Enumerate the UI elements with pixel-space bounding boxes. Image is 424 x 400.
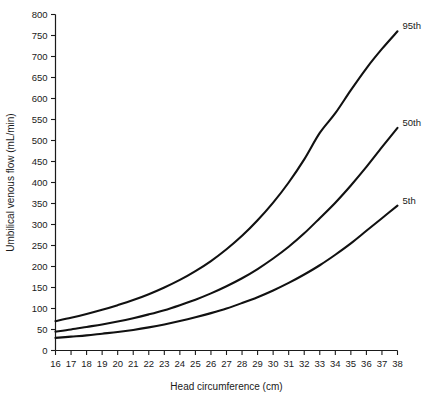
x-tick-label: 21 (128, 358, 139, 369)
y-tick-label: 750 (32, 30, 48, 41)
chart-canvas: 0501001502002503003504004505005506006507… (0, 0, 424, 400)
y-tick-label: 700 (32, 51, 48, 62)
series-label-50th: 50th (403, 117, 422, 128)
x-tick-label: 38 (392, 358, 403, 369)
series-label-95th: 95th (403, 20, 422, 31)
x-tick-label: 18 (81, 358, 92, 369)
y-tick-label: 200 (32, 261, 48, 272)
x-tick-label: 34 (330, 358, 341, 369)
curve-5th (56, 206, 398, 338)
y-tick-label: 350 (32, 198, 48, 209)
series-label-5th: 5th (403, 195, 416, 206)
x-tick-label: 35 (346, 358, 357, 369)
y-tick-label: 150 (32, 282, 48, 293)
y-tick-label: 650 (32, 72, 48, 83)
y-tick-label: 400 (32, 177, 48, 188)
y-tick-label: 100 (32, 303, 48, 314)
y-tick-label: 800 (32, 9, 48, 20)
x-axis-title: Head circumference (cm) (170, 381, 282, 392)
y-tick-label: 300 (32, 219, 48, 230)
x-tick-label: 27 (221, 358, 232, 369)
y-tick-label: 550 (32, 114, 48, 125)
y-axis-tick-labels: 0501001502002503003504004505005506006507… (32, 9, 48, 356)
data-curves (56, 31, 398, 338)
series-end-labels: 95th50th5th (403, 20, 422, 205)
x-tick-label: 22 (143, 358, 154, 369)
x-tick-label: 19 (97, 358, 108, 369)
x-tick-label: 16 (50, 358, 61, 369)
x-tick-label: 36 (361, 358, 372, 369)
x-tick-label: 30 (268, 358, 279, 369)
x-tick-label: 24 (175, 358, 186, 369)
y-tick-label: 500 (32, 135, 48, 146)
y-tick-label: 450 (32, 156, 48, 167)
x-tick-label: 32 (299, 358, 310, 369)
x-tick-label: 37 (377, 358, 388, 369)
x-tick-label: 28 (237, 358, 248, 369)
chart-figure: 0501001502002503003504004505005506006507… (0, 0, 424, 400)
x-axis-tick-labels: 1617181920212223242526272829303132333435… (50, 358, 403, 369)
curve-50th (56, 128, 398, 332)
y-axis-title: Umbilical venous flow (mL/min) (5, 113, 16, 251)
x-tick-label: 25 (190, 358, 201, 369)
curve-95th (56, 31, 398, 321)
y-tick-label: 0 (42, 345, 47, 356)
y-tick-label: 600 (32, 93, 48, 104)
x-tick-label: 20 (112, 358, 123, 369)
y-tick-label: 250 (32, 240, 48, 251)
x-tick-label: 33 (314, 358, 325, 369)
x-tick-label: 17 (66, 358, 77, 369)
x-tick-label: 29 (252, 358, 263, 369)
x-axis-tick-marks (56, 351, 398, 356)
y-tick-label: 50 (37, 324, 48, 335)
x-tick-label: 31 (283, 358, 294, 369)
y-axis-tick-marks (51, 15, 56, 351)
x-tick-label: 23 (159, 358, 170, 369)
x-tick-label: 26 (206, 358, 217, 369)
